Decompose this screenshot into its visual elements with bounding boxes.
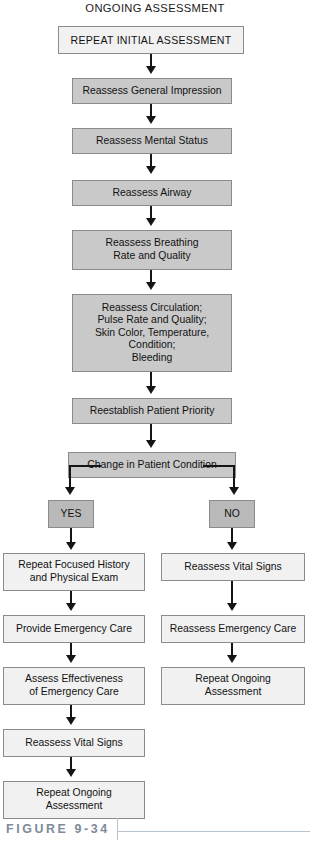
branch-yes-elbow	[69, 465, 101, 487]
node-label: YES	[61, 508, 82, 521]
node-label: Repeat Focused History and Physical Exam	[18, 559, 129, 584]
node-yes: YES	[48, 500, 94, 528]
node-reassess-circulation: Reassess Circulation; Pulse Rate and Qua…	[72, 294, 232, 372]
arrowhead-n2-n3	[146, 116, 156, 124]
arrowhead-r1-r2	[227, 603, 237, 611]
node-label: Assess Effectiveness of Emergency Care	[25, 673, 123, 698]
caption-tick-divider	[117, 818, 118, 840]
node-no: NO	[209, 500, 255, 528]
node-reassess-vital-signs-left: Reassess Vital Signs	[3, 729, 145, 757]
node-repeat-focused-history: Repeat Focused History and Physical Exam	[3, 553, 145, 591]
node-label: Reassess Circulation; Pulse Rate and Qua…	[95, 302, 209, 365]
node-reassess-mental-status: Reassess Mental Status	[72, 128, 232, 154]
node-repeat-ongoing-assessment-left: Repeat Ongoing Assessment	[3, 781, 145, 819]
node-label: Repeat Ongoing Assessment	[195, 673, 271, 698]
node-label: Reestablish Patient Priority	[90, 405, 215, 418]
node-reassess-emergency-care: Reassess Emergency Care	[161, 615, 305, 643]
caption-horizontal-rule	[118, 831, 310, 832]
node-label: Reassess Emergency Care	[170, 623, 296, 636]
node-provide-emergency-care: Provide Emergency Care	[3, 615, 145, 643]
node-label: Reassess Vital Signs	[184, 561, 281, 574]
arrowhead-r2-r3	[227, 655, 237, 663]
node-reassess-airway: Reassess Airway	[72, 180, 232, 206]
node-label: Reassess Mental Status	[96, 135, 208, 148]
node-repeat-ongoing-assessment-right: Repeat Ongoing Assessment	[161, 667, 305, 705]
node-label: Reassess General Impression	[82, 85, 221, 98]
arrowhead-n4-n5	[146, 218, 156, 226]
node-reassess-general-impression: Reassess General Impression	[72, 78, 232, 104]
arrowhead-l1-l2	[66, 603, 76, 611]
node-label: Reassess Airway	[112, 187, 191, 200]
branch-yes-vline	[69, 470, 71, 488]
node-label: NO	[224, 508, 240, 521]
node-label: Reassess Breathing Rate and Quality	[106, 237, 199, 262]
arrowhead-l3-l4	[66, 717, 76, 725]
arrowhead-l2-l3	[66, 655, 76, 663]
node-label: REPEAT INITIAL ASSESSMENT	[71, 34, 232, 47]
arrowhead-no-r1	[227, 542, 237, 550]
branch-no-vline	[233, 470, 235, 488]
node-repeat-initial-assessment: REPEAT INITIAL ASSESSMENT	[58, 26, 244, 54]
node-label: Repeat Ongoing Assessment	[36, 787, 112, 812]
arrowhead-yes-l1	[66, 542, 76, 550]
arrowhead-n3-n4	[146, 166, 156, 174]
node-reassess-vital-signs-right: Reassess Vital Signs	[161, 553, 305, 581]
arrowhead-branch-yes	[65, 487, 75, 495]
page-title: ONGOING ASSESSMENT	[0, 2, 310, 14]
flowchart-ongoing-assessment: ONGOING ASSESSMENT REPEAT INITIAL ASSESS…	[0, 0, 310, 849]
node-reestablish-patient-priority: Reestablish Patient Priority	[72, 398, 232, 424]
arrowhead-n5-n6	[146, 282, 156, 290]
arrowhead-n7-n8	[146, 440, 156, 448]
arrowhead-l4-l5	[66, 769, 76, 777]
branch-no-elbow	[203, 465, 235, 487]
arrowhead-n1-n2	[146, 66, 156, 74]
node-reassess-breathing: Reassess Breathing Rate and Quality	[72, 230, 232, 270]
node-label: Reassess Vital Signs	[25, 737, 122, 750]
node-label: Provide Emergency Care	[16, 623, 132, 636]
node-label: Change in Patient Condition	[87, 459, 216, 472]
figure-caption: FIGURE 9-34	[6, 822, 110, 836]
arrowhead-branch-no	[229, 487, 239, 495]
node-assess-effectiveness: Assess Effectiveness of Emergency Care	[3, 667, 145, 705]
arrowhead-n6-n7	[146, 386, 156, 394]
